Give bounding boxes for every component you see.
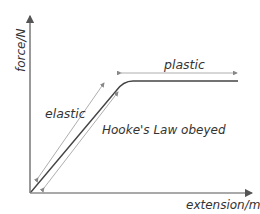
elastic-region-arrow [38, 83, 104, 178]
plastic-label: plastic [164, 57, 205, 72]
y-axis-label: force/N [14, 22, 28, 72]
force-extension-diagram: force/N extension/m plastic elastic Hook… [0, 0, 260, 214]
x-axis-label: extension/m [186, 198, 260, 212]
hooke-law-label: Hooke's Law obeyed [102, 123, 226, 137]
diagram-graphics [0, 0, 260, 214]
elastic-label: elastic [45, 106, 86, 121]
